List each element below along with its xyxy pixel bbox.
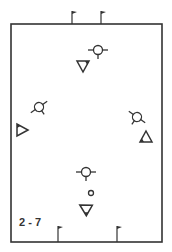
bottom-left-flag-icon: [58, 226, 63, 242]
defender-left-icon: [17, 124, 28, 136]
attacker-left-icon: [28, 98, 52, 121]
defender-bottom-icon: [77, 200, 93, 216]
top-left-flag-icon: [72, 11, 77, 24]
attacker-top-icon: [88, 46, 108, 60]
defender-top-icon: [77, 61, 89, 72]
attacker-bottom-icon: [76, 168, 96, 182]
top-right-flag-icon: [101, 11, 106, 24]
attacker-right-icon: [124, 108, 148, 131]
ball-icon: [89, 191, 94, 196]
defender-right-icon: [140, 131, 152, 142]
diagram-label: 2 - 7: [19, 216, 41, 228]
soccer-drill-diagram: [0, 0, 172, 252]
field-boundary: [11, 24, 162, 242]
bottom-right-flag-icon: [117, 226, 122, 242]
